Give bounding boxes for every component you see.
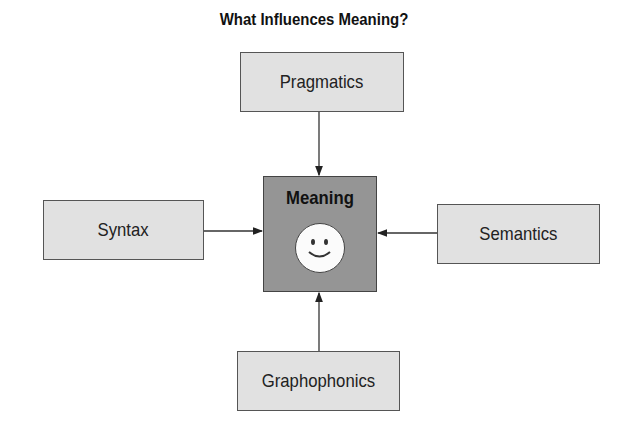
connector-arrows bbox=[0, 0, 628, 438]
